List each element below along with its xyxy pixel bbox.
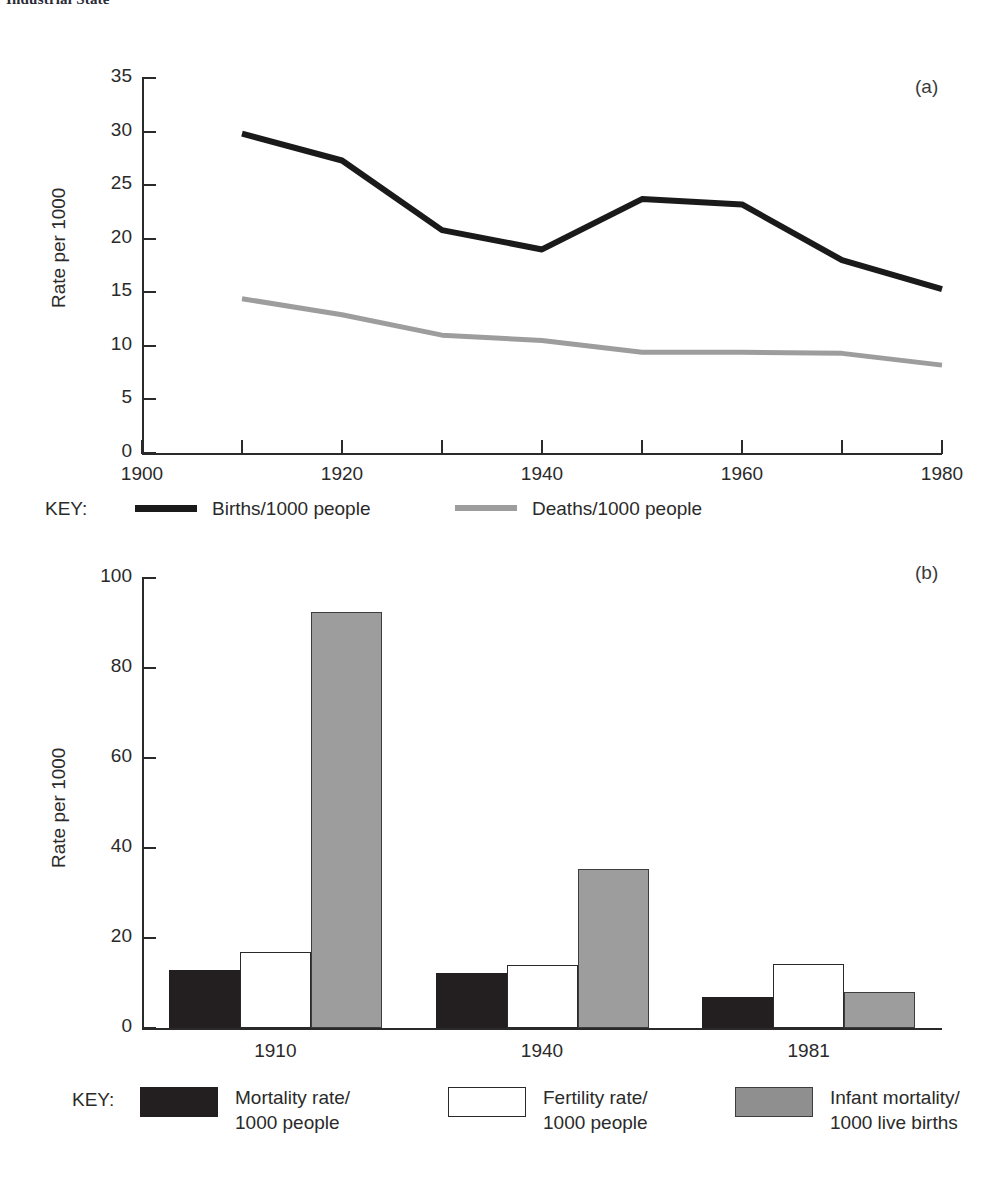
panel-a-x-tick-label: 1920 bbox=[297, 463, 387, 485]
panel-b-legend-item-infant-mortality: Infant mortality/ 1000 live births bbox=[735, 1085, 960, 1135]
births-line bbox=[242, 134, 942, 289]
panel-b-y-tick bbox=[142, 757, 156, 759]
panel-a-x-tick bbox=[941, 440, 943, 454]
bar-fertility bbox=[240, 952, 311, 1029]
panel-a-y-tick bbox=[142, 131, 156, 133]
panel-a-line-chart: (a) Rate per 1000 0510152025303519001920… bbox=[0, 48, 998, 488]
chart-page: Industrial State (a) Rate per 1000 05101… bbox=[0, 0, 998, 1191]
panel-b-legend-label-mortality: Mortality rate/ 1000 people bbox=[235, 1085, 350, 1135]
bar-fertility bbox=[773, 964, 844, 1028]
panel-a-y-tick bbox=[142, 238, 156, 240]
panel-b-x-tick-label: 1910 bbox=[225, 1040, 325, 1062]
mortality-swatch-icon bbox=[140, 1087, 218, 1117]
panel-a-legend-item-births: Births/1000 people bbox=[135, 496, 370, 521]
panel-b-bar-chart: (b) Rate per 1000 0204060801001910194019… bbox=[0, 548, 998, 1048]
panel-a-x-tick bbox=[241, 440, 243, 454]
panel-a-legend-item-deaths: Deaths/1000 people bbox=[455, 496, 702, 521]
panel-b-key: KEY: Mortality rate/ 1000 people Fertili… bbox=[0, 1085, 998, 1155]
births-line-swatch-icon bbox=[135, 505, 197, 512]
deaths-line-swatch-icon bbox=[455, 505, 517, 511]
panel-a-x-tick-label: 1940 bbox=[497, 463, 587, 485]
panel-b-y-tick bbox=[142, 847, 156, 849]
panel-a-series-lines bbox=[142, 78, 942, 453]
panel-a-y-tick-label: 10 bbox=[80, 333, 132, 355]
panel-a-x-tick-label: 1960 bbox=[697, 463, 787, 485]
panel-a-key-word: KEY: bbox=[45, 498, 87, 520]
bar-infant-mortality bbox=[578, 869, 649, 1028]
panel-a-x-tick-label: 1980 bbox=[897, 463, 987, 485]
panel-a-y-axis-label: Rate per 1000 bbox=[48, 188, 70, 308]
panel-b-legend-label-infant-mortality: Infant mortality/ 1000 live births bbox=[830, 1085, 960, 1135]
panel-b-y-axis bbox=[142, 578, 144, 1029]
bar-mortality bbox=[702, 997, 773, 1029]
panel-b-x-tick-label: 1981 bbox=[759, 1040, 859, 1062]
bar-fertility bbox=[507, 965, 578, 1028]
panel-a-y-tick bbox=[142, 291, 156, 293]
panel-a-x-tick bbox=[141, 440, 143, 454]
panel-a-y-tick-label: 5 bbox=[80, 386, 132, 408]
panel-a-y-tick bbox=[142, 184, 156, 186]
infant-label-line2: 1000 live births bbox=[830, 1112, 958, 1133]
mortality-label-line2: 1000 people bbox=[235, 1112, 340, 1133]
panel-b-y-tick bbox=[142, 577, 156, 579]
panel-a-key: KEY: Births/1000 people Deaths/1000 peop… bbox=[0, 496, 998, 532]
panel-a-legend-label-births: Births/1000 people bbox=[212, 496, 370, 521]
infant-label-line1: Infant mortality/ bbox=[830, 1087, 960, 1108]
panel-b-y-tick bbox=[142, 667, 156, 669]
panel-a-x-tick bbox=[841, 440, 843, 454]
mortality-label-line1: Mortality rate/ bbox=[235, 1087, 350, 1108]
panel-b-y-tick-label: 100 bbox=[76, 565, 132, 587]
panel-b-x-axis bbox=[142, 1028, 942, 1030]
infant-mortality-swatch-icon bbox=[735, 1087, 813, 1117]
fertility-label-line2: 1000 people bbox=[543, 1112, 648, 1133]
panel-b-y-tick-label: 40 bbox=[76, 835, 132, 857]
bar-infant-mortality bbox=[844, 992, 915, 1028]
panel-a-x-tick bbox=[541, 440, 543, 454]
panel-a-x-tick bbox=[341, 440, 343, 454]
bar-mortality bbox=[169, 970, 240, 1029]
panel-a-plot-area: 0510152025303519001920194019601980 bbox=[142, 78, 942, 453]
panel-a-y-tick bbox=[142, 345, 156, 347]
panel-b-legend-label-fertility: Fertility rate/ 1000 people bbox=[543, 1085, 648, 1135]
panel-b-y-tick-label: 0 bbox=[76, 1015, 132, 1037]
panel-b-y-tick bbox=[142, 937, 156, 939]
panel-b-y-axis-label: Rate per 1000 bbox=[48, 748, 70, 868]
panel-a-y-tick-label: 0 bbox=[80, 440, 132, 462]
panel-a-y-tick-label: 35 bbox=[80, 65, 132, 87]
fertility-label-line1: Fertility rate/ bbox=[543, 1087, 648, 1108]
panel-a-y-tick bbox=[142, 77, 156, 79]
panel-a-x-tick bbox=[741, 440, 743, 454]
panel-a-y-tick-label: 15 bbox=[80, 279, 132, 301]
panel-a-y-tick-label: 20 bbox=[80, 226, 132, 248]
panel-a-x-tick-label: 1900 bbox=[97, 463, 187, 485]
panel-b-y-tick-label: 20 bbox=[76, 925, 132, 947]
panel-a-x-tick bbox=[441, 440, 443, 454]
panel-a-y-tick-label: 30 bbox=[80, 119, 132, 141]
panel-b-plot-area: 020406080100191019401981 bbox=[142, 578, 942, 1028]
panel-a-y-tick bbox=[142, 398, 156, 400]
panel-b-legend-item-fertility: Fertility rate/ 1000 people bbox=[448, 1085, 648, 1135]
panel-a-legend-label-deaths: Deaths/1000 people bbox=[532, 496, 702, 521]
panel-a-x-tick bbox=[641, 440, 643, 454]
deaths-line bbox=[242, 299, 942, 365]
bar-infant-mortality bbox=[311, 612, 382, 1028]
panel-b-x-tick-label: 1940 bbox=[492, 1040, 592, 1062]
panel-b-y-tick bbox=[142, 1027, 156, 1029]
panel-b-legend-item-mortality: Mortality rate/ 1000 people bbox=[140, 1085, 350, 1135]
fertility-swatch-icon bbox=[448, 1087, 526, 1117]
panel-b-y-tick-label: 80 bbox=[76, 655, 132, 677]
panel-b-key-word: KEY: bbox=[72, 1089, 114, 1111]
panel-a-y-tick bbox=[142, 452, 156, 454]
panel-a-y-tick-label: 25 bbox=[80, 172, 132, 194]
bar-mortality bbox=[436, 973, 507, 1028]
panel-b-y-tick-label: 60 bbox=[76, 745, 132, 767]
running-head: Industrial State bbox=[6, 0, 110, 8]
